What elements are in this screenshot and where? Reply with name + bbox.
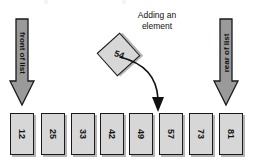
list-item-value: 25 [48, 129, 58, 139]
curved-down-arrow-icon [118, 55, 178, 115]
list-item-value: 12 [17, 129, 27, 139]
list-item-value: 49 [136, 129, 146, 139]
front-of-list-arrow: front of list [10, 19, 34, 105]
diagram-canvas: front of list rear of list Adding an ele… [0, 0, 256, 164]
list-item-box: 73 [189, 113, 213, 155]
list-item-value: 42 [107, 129, 117, 139]
list-item-value: 73 [196, 129, 206, 139]
list-item-box: 33 [71, 113, 95, 155]
caption-line-1: Adding an [122, 10, 192, 21]
list-item-box: 42 [100, 113, 124, 155]
list-item-box: 81 [219, 113, 243, 155]
list-item-box: 49 [129, 113, 153, 155]
rear-of-list-label: rear of list [222, 34, 231, 73]
list-item-box: 57 [159, 113, 183, 155]
caption-line-2: element [122, 21, 192, 32]
top-crop-artifact [122, 0, 126, 4]
list-item-value: 57 [166, 129, 176, 139]
list-item-box: 12 [10, 113, 34, 155]
list-item-value: 33 [78, 129, 88, 139]
front-of-list-label: front of list [18, 32, 27, 74]
list-item-value: 81 [226, 129, 236, 139]
rear-of-list-arrow: rear of list [214, 19, 238, 105]
top-crop-artifact [44, 0, 48, 4]
list-item-box: 25 [41, 113, 65, 155]
caption-adding-an-element: Adding an element [122, 10, 192, 32]
